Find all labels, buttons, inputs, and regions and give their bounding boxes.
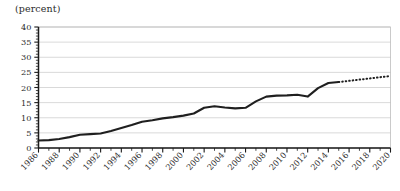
y-axis-tick-labels: 0510152025303540 [21, 22, 31, 153]
svg-text:2004: 2004 [205, 150, 227, 172]
svg-text:1992: 1992 [81, 150, 103, 172]
svg-text:40: 40 [21, 22, 31, 32]
svg-text:1998: 1998 [143, 150, 165, 172]
svg-text:1994: 1994 [101, 150, 123, 172]
series-line-projection [339, 76, 391, 82]
svg-text:2016: 2016 [329, 150, 351, 172]
svg-text:15: 15 [21, 98, 31, 108]
svg-text:1990: 1990 [60, 150, 82, 172]
svg-text:2000: 2000 [163, 150, 185, 172]
svg-text:10: 10 [21, 113, 31, 123]
line-chart-plot: 0510152025303540 19861988199019921994199… [0, 0, 400, 191]
x-axis-tick-labels: 1986198819901992199419961998200020022004… [18, 150, 392, 172]
svg-text:2006: 2006 [225, 150, 247, 172]
svg-text:2010: 2010 [267, 150, 289, 172]
chart-container: (percent) 0510152025303540 1986198819901… [0, 0, 400, 191]
svg-text:20: 20 [21, 83, 31, 93]
svg-text:1986: 1986 [18, 150, 40, 172]
svg-text:2008: 2008 [246, 150, 268, 172]
series-line-actual [39, 82, 339, 140]
svg-text:5: 5 [26, 128, 31, 138]
svg-text:2014: 2014 [308, 150, 330, 172]
svg-text:2012: 2012 [288, 150, 310, 172]
svg-text:1988: 1988 [39, 150, 61, 172]
svg-text:2002: 2002 [184, 150, 206, 172]
svg-text:35: 35 [21, 37, 31, 47]
gridlines [39, 27, 391, 133]
svg-text:1996: 1996 [122, 150, 144, 172]
svg-text:30: 30 [21, 52, 31, 62]
svg-text:2020: 2020 [370, 150, 392, 172]
svg-text:25: 25 [21, 67, 31, 77]
svg-text:2018: 2018 [350, 150, 372, 172]
